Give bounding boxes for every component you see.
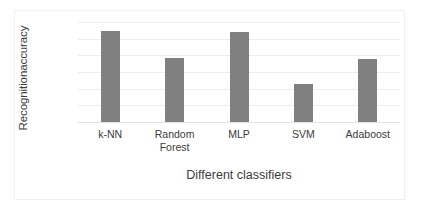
- x-axis-category-label-line2: Forest: [132, 141, 218, 154]
- bar: [230, 32, 249, 122]
- gridline: [78, 22, 400, 23]
- bar: [294, 84, 313, 122]
- x-axis-title: Different classifiers: [78, 168, 400, 182]
- x-axis-category-label: Adaboost: [325, 128, 411, 141]
- bar: [358, 59, 377, 122]
- gridline: [78, 122, 400, 123]
- bar: [165, 58, 184, 122]
- chart-screenshot: Recognitionaccuracy 80828486889092 Diffe…: [0, 0, 422, 213]
- bar: [101, 31, 120, 122]
- y-axis-title: Recognitionaccuracy: [17, 8, 29, 148]
- plot-area: 80828486889092: [78, 22, 400, 122]
